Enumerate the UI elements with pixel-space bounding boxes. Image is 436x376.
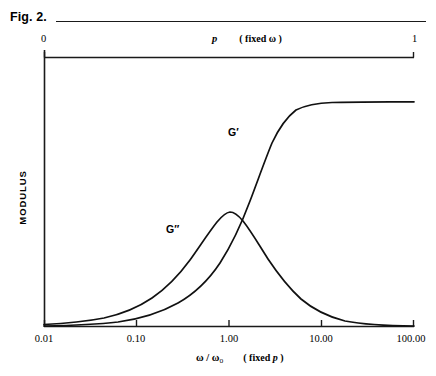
top-axis-tick-label-right: 1 <box>412 33 417 44</box>
bottom-axis-subscript: o <box>220 356 224 365</box>
curve-label-storage-modulus: G′ <box>228 126 239 138</box>
x-tick-label-1: 0.10 <box>127 333 145 344</box>
curve-loss-modulus <box>44 212 414 326</box>
bottom-axis-variable: ω / ω <box>196 352 220 363</box>
bottom-axis-condition-open: ( fixed <box>243 352 272 363</box>
plot-axes <box>44 50 414 327</box>
bottom-axis-title: ω / ωo( fixed p ) <box>196 352 284 363</box>
top-axis-ticks <box>45 52 414 58</box>
x-tick-label-3: 10.00 <box>309 333 333 344</box>
top-axis-condition: ( fixed ω ) <box>239 33 282 44</box>
top-axis-tick-label-left: 0 <box>41 33 46 44</box>
x-tick-label-2: 1.00 <box>220 333 238 344</box>
top-axis-variable: p <box>212 33 217 44</box>
top-axis-title: p( fixed ω ) <box>212 33 282 44</box>
curve-label-loss-modulus: G″ <box>166 223 179 235</box>
modulus-plot: 0 1 p( fixed ω ) 0.01 0.10 1.00 10.00 10… <box>0 0 436 376</box>
y-axis-title: MODULUS <box>17 158 28 238</box>
x-tick-label-4: 100.00 <box>397 333 426 344</box>
plot-canvas <box>0 0 436 376</box>
bottom-axis-condition-close: ) <box>278 352 284 363</box>
x-tick-label-0: 0.01 <box>35 333 53 344</box>
bottom-axis-condition: ( fixed p ) <box>243 352 283 363</box>
